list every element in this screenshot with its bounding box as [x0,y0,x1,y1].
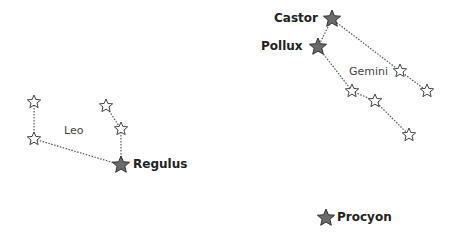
stars [27,10,433,225]
constellation-line [34,139,121,165]
star-label-regulus: Regulus [133,157,187,171]
star-label-pollux: Pollux [261,39,303,53]
star-chart [0,0,454,240]
constellation-label-leo: Leo [64,124,83,137]
constellation-line [400,71,427,91]
star-icon [393,64,406,77]
star-label-procyon: Procyon [337,210,392,224]
constellation-lines [34,19,427,165]
star-icon [368,94,381,107]
procyon-star-icon [317,209,334,225]
constellation-label-gemini: Gemini [349,65,388,78]
star-label-castor: Castor [274,11,318,25]
star-icon [420,84,433,97]
constellation-line [332,19,400,71]
castor-star-icon [323,10,340,26]
regulus-star-icon [112,156,129,172]
star-icon [402,128,415,141]
pollux-star-icon [309,38,326,54]
star-icon [99,99,112,112]
star-icon [27,132,40,145]
constellation-line [375,101,409,135]
